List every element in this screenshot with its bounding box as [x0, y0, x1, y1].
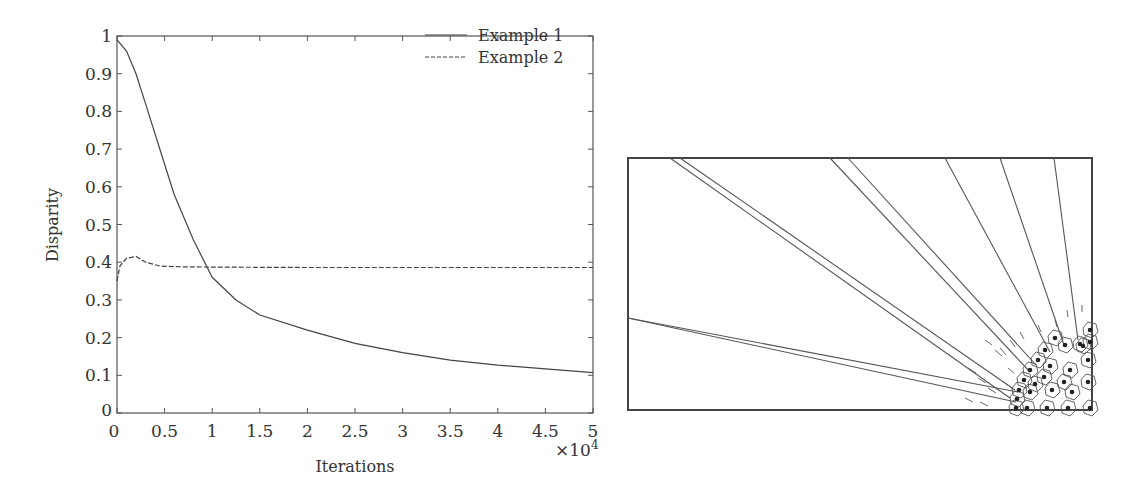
y-tick-label: 0.3 [85, 290, 112, 310]
y-tick-label: 0.7 [85, 139, 112, 159]
radial-lines [628, 158, 1078, 402]
y-tick-label: 0 [101, 400, 112, 420]
voronoi-diagram [628, 158, 1098, 416]
y-tick-label: 0.1 [85, 365, 112, 385]
x-tick-label: 4 [492, 421, 503, 441]
x-tick-label: 3.5 [437, 421, 464, 441]
y-tick-label: 0.4 [85, 252, 112, 272]
series-example-2 [117, 257, 593, 282]
x-tick-label: 4.5 [532, 421, 559, 441]
y-tick-label: 1 [101, 26, 112, 46]
legend-label-example-2: Example 2 [478, 48, 564, 67]
y-tick-label: 0.8 [85, 101, 112, 121]
x-tick-label: 1 [207, 421, 218, 441]
x-tick-label: 2 [302, 421, 313, 441]
y-tick-label: 0.5 [85, 215, 112, 235]
x-tick-label: 1.5 [246, 421, 273, 441]
x-multiplier: ×104 [555, 438, 599, 460]
y-tick-label: 0.6 [85, 177, 112, 197]
plot-frame [117, 36, 593, 413]
x-tick-label: 0 [109, 421, 120, 441]
x-axis-label: Iterations [315, 457, 394, 476]
axis-ticks: 00.511.522.533.544.5500.10.20.30.40.50.6… [85, 26, 598, 441]
y-tick-label: 0.9 [85, 64, 112, 84]
y-axis-label: Disparity [43, 188, 62, 262]
series-example-1 [117, 40, 593, 373]
legend: Example 1 Example 2 [425, 26, 564, 67]
x-tick-label: 2.5 [341, 421, 368, 441]
x-tick-label: 0.5 [151, 421, 178, 441]
legend-label-example-1: Example 1 [478, 26, 564, 45]
disparity-chart: 00.511.522.533.544.5500.10.20.30.40.50.6… [0, 0, 1136, 500]
y-tick-label: 0.2 [85, 328, 112, 348]
x-tick-label: 3 [397, 421, 408, 441]
